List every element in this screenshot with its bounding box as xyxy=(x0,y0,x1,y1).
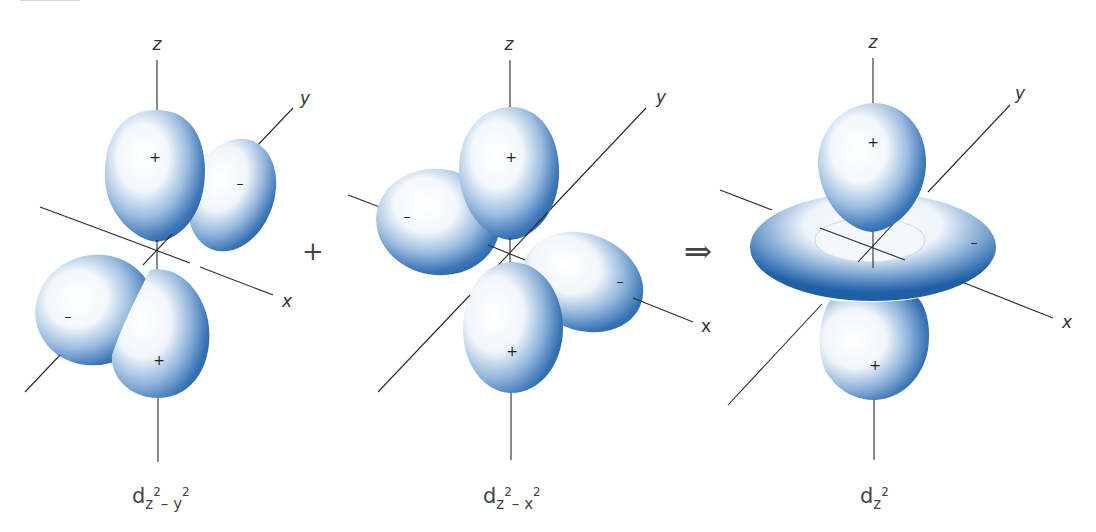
sign-top: + xyxy=(505,149,517,165)
caption-dz2-x2: dz2– x2 xyxy=(483,484,541,513)
sign-torus: – xyxy=(971,234,978,250)
lobe-bottom-positive xyxy=(820,298,929,400)
sign-bottom: + xyxy=(506,343,518,359)
lobe-bottom-positive xyxy=(463,262,563,393)
panel-dz2: + – + z y x dz2 xyxy=(720,32,1073,513)
y-axis-label: y xyxy=(1014,83,1026,103)
z-axis-label: z xyxy=(504,34,515,54)
y-axis-back xyxy=(928,105,1010,192)
panel-dz2-y2: + – – + z y x dz2– y2 xyxy=(23,34,311,513)
x-axis-label: x xyxy=(281,291,293,311)
x-axis-label: x xyxy=(701,316,711,336)
sign-bottom: + xyxy=(153,352,165,368)
z-axis-label: z xyxy=(868,32,879,52)
y-axis-front xyxy=(378,295,470,392)
sign-front-left: – xyxy=(65,308,72,324)
y-axis-back xyxy=(255,108,293,148)
implies-operator: ⇒ xyxy=(684,231,713,271)
caption-dz2-y2: dz2– y2 xyxy=(132,484,190,513)
x-axis-front xyxy=(962,282,1053,318)
orbital-diagram: + – – + z y x dz2– y2 + + – – + xyxy=(0,0,1096,532)
sign-right: – xyxy=(617,273,624,289)
sign-bottom: + xyxy=(869,357,881,373)
panel-dz2-x2: + – – + z y x dz2– x2 xyxy=(348,34,711,513)
z-axis-label: z xyxy=(152,34,163,54)
plus-operator: + xyxy=(302,236,324,266)
x-axis-label: x xyxy=(1061,312,1073,332)
x-axis-front xyxy=(633,298,693,322)
sign-back-right: – xyxy=(237,175,244,191)
sign-top: + xyxy=(149,149,161,165)
y-axis-front xyxy=(25,355,60,392)
sign-top: + xyxy=(867,134,879,150)
x-axis-front xyxy=(200,267,273,295)
x-axis-back xyxy=(40,207,110,233)
y-axis-back xyxy=(545,108,646,215)
x-axis-back xyxy=(720,190,772,210)
sign-left: – xyxy=(404,208,411,224)
y-axis-label: y xyxy=(655,87,667,107)
caption-dz2: dz2 xyxy=(860,484,889,513)
y-axis-front xyxy=(728,304,822,405)
y-axis-label: y xyxy=(299,88,311,108)
